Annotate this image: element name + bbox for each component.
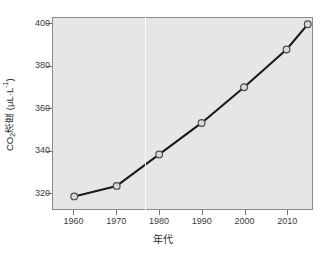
y-tick-label: 320 — [6, 189, 50, 198]
x-tick-label: 2000 — [225, 216, 265, 226]
y-axis-title-middle: 浓度 (μL·L — [4, 88, 15, 133]
x-tick-mark — [116, 210, 117, 215]
data-point — [283, 46, 290, 53]
y-axis-title: CO2浓度 (μL·L-1) — [2, 50, 16, 180]
data-point — [304, 21, 311, 28]
x-tick-label: 2010 — [267, 216, 307, 226]
y-axis-title-sup: -1 — [2, 82, 9, 88]
x-tick-mark — [202, 210, 203, 215]
x-tick-mark — [159, 210, 160, 215]
co2-series-markers — [71, 21, 311, 200]
x-tick-label: 1960 — [53, 216, 93, 226]
data-point — [113, 183, 120, 190]
y-tick-label: 400 — [6, 19, 50, 28]
x-tick-mark — [245, 210, 246, 215]
x-axis-title: 年代 — [0, 231, 325, 246]
x-tick-label: 1980 — [139, 216, 179, 226]
co2-series-line — [74, 24, 308, 196]
data-point — [198, 120, 205, 127]
x-tick-mark — [73, 210, 74, 215]
x-tick-label: 1970 — [96, 216, 136, 226]
x-tick-label: 1990 — [182, 216, 222, 226]
y-axis-title-suffix: ) — [4, 79, 15, 82]
chart-figure: 320340360380400 196019701980199020002010… — [0, 0, 325, 254]
plot-area — [52, 17, 313, 210]
x-tick-mark — [287, 210, 288, 215]
y-axis-title-sub: 2 — [9, 133, 16, 137]
data-point — [156, 151, 163, 158]
render-seam-line — [145, 17, 146, 210]
data-point — [241, 84, 248, 91]
data-point — [71, 193, 78, 200]
y-axis-title-prefix: CO — [4, 137, 15, 151]
chart-plot-svg — [53, 18, 312, 209]
